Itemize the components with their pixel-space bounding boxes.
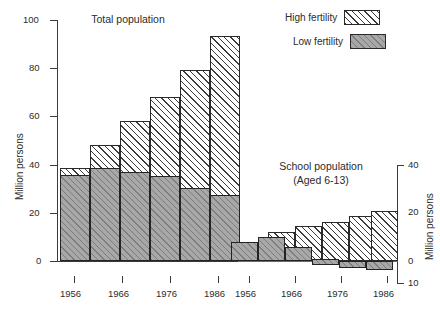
x-tick-right-1956: [249, 276, 250, 283]
y-tick-label-left-100: 100: [23, 14, 39, 25]
bar-low-1974-left: [150, 176, 180, 261]
y-tick-right-40: [397, 165, 404, 166]
x-tick-right-1986: [387, 276, 388, 283]
y-tick-label-left-20: 20: [29, 207, 40, 218]
legend-swatch-low-fertility: [350, 34, 386, 49]
bar-low-1974-right: [312, 259, 339, 265]
y-tick-right-minus10: [397, 283, 404, 284]
chart-subtitle-school-population: (Aged 6-13): [256, 174, 386, 186]
bar-low-1962-right: [258, 237, 285, 261]
legend-label-high-fertility: High fertility: [285, 12, 337, 23]
x-tick-label-right-1976: 1976: [327, 288, 348, 299]
chart-figure: High fertility Low fertility Total popul…: [0, 0, 440, 316]
y-axis-line-left: [57, 20, 58, 261]
bar-low-1980-right: [339, 261, 366, 268]
y-tick-label-right-minus10: 10: [408, 277, 419, 288]
chart-title-total-population: Total population: [68, 13, 188, 25]
bar-low-1962-left: [90, 168, 120, 261]
x-tick-left-1986: [218, 276, 219, 283]
chart-title-school-population: School population: [256, 160, 386, 172]
y-tick-label-left-40: 40: [29, 159, 40, 170]
y-tick-left-0: [50, 261, 57, 262]
y-tick-left-80: [50, 68, 57, 69]
y-tick-label-left-60: 60: [29, 110, 40, 121]
bar-low-1968-left: [120, 172, 150, 261]
x-axis-line-left: [57, 261, 242, 262]
y-axis-label-left: Million persons: [14, 133, 25, 200]
bar-low-1956-right: [231, 242, 258, 261]
y-tick-label-left-0: 0: [36, 255, 41, 266]
y-tick-label-right-40: 40: [408, 159, 419, 170]
legend-swatch-high-fertility: [344, 10, 380, 25]
x-tick-left-1956: [74, 276, 75, 283]
y-tick-left-100: [50, 20, 57, 21]
bar-high-1986-right: [371, 211, 398, 261]
legend-item-high-fertility: High fertility: [285, 10, 380, 25]
bar-low-1986-right: [366, 261, 393, 270]
x-tick-right-1966: [295, 276, 296, 283]
x-tick-left-1966: [122, 276, 123, 283]
x-tick-left-1976: [170, 276, 171, 283]
y-tick-label-right-0: 0: [408, 255, 413, 266]
y-tick-label-right-20: 20: [408, 206, 419, 217]
x-tick-label-right-1956: 1956: [235, 288, 256, 299]
x-tick-right-1976: [341, 276, 342, 283]
y-tick-left-60: [50, 116, 57, 117]
x-tick-label-left-1966: 1966: [108, 288, 129, 299]
x-tick-label-left-1976: 1976: [156, 288, 177, 299]
y-tick-left-20: [50, 213, 57, 214]
bar-low-1968-right: [285, 247, 312, 261]
legend-item-low-fertility: Low fertility: [293, 34, 386, 49]
y-axis-label-right: Million persons: [424, 193, 435, 260]
bar-low-1956-left: [60, 175, 90, 261]
bar-low-1980-left: [180, 188, 210, 261]
legend-label-low-fertility: Low fertility: [293, 36, 343, 47]
x-tick-label-left-1956: 1956: [60, 288, 81, 299]
y-tick-left-40: [50, 165, 57, 166]
x-tick-label-left-1986: 1986: [204, 288, 225, 299]
bar-high-1974-right: [322, 222, 349, 261]
y-tick-label-left-80: 80: [29, 62, 40, 73]
x-tick-label-right-1966: 1966: [281, 288, 302, 299]
x-tick-label-right-1986: 1986: [373, 288, 394, 299]
